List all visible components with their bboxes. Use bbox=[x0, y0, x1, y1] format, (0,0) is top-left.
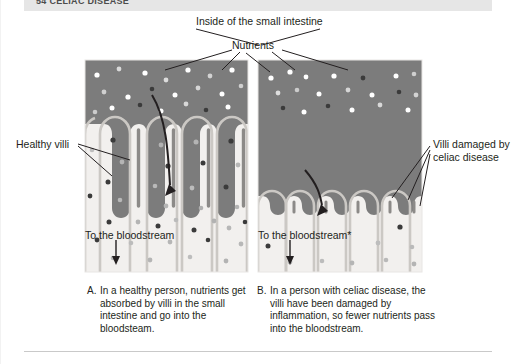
bloodstream-label-b: To the bloodstream* bbox=[258, 229, 351, 242]
diagram-title: Inside of the small intestine bbox=[196, 15, 323, 28]
diagram-stage: 54 CELIAC DISEASE bbox=[0, 0, 516, 364]
damaged-villi-label: Villi damaged by celiac disease bbox=[433, 138, 515, 164]
left-edge-rule bbox=[0, 0, 1, 364]
caption-a-index: A. bbox=[87, 285, 96, 298]
healthy-villi-label: Healthy villi bbox=[16, 138, 69, 151]
bottom-divider bbox=[24, 351, 492, 352]
nutrients-label: Nutrients bbox=[232, 39, 274, 52]
caption-b-text: In a person with celiac disease, the vil… bbox=[257, 285, 437, 335]
caption-a-text: In a healthy person, nutrients get absor… bbox=[87, 285, 253, 335]
bloodstream-label-a: To the bloodstream bbox=[85, 229, 174, 242]
caption-b: B. In a person with celiac disease, the … bbox=[257, 285, 437, 335]
caption-b-index: B. bbox=[257, 285, 266, 298]
caption-a: A. In a healthy person, nutrients get ab… bbox=[87, 285, 253, 335]
